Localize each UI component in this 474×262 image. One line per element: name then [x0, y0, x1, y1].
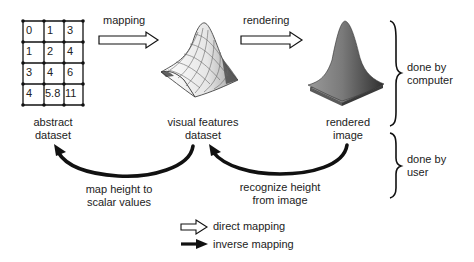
inverse-arrow-left-head-icon	[54, 144, 66, 156]
done-by-computer-line2: computer	[407, 74, 453, 87]
legend-direct-arrow-icon	[181, 220, 207, 234]
rendered-image-label: rendered image	[318, 116, 378, 142]
brace-user-icon	[390, 133, 401, 198]
visual-features-label: visual features dataset	[158, 116, 248, 142]
grid-cell: 5.8	[45, 87, 60, 99]
done-by-computer-line1: done by	[407, 61, 453, 74]
abstract-dataset-label-line1: abstract	[18, 116, 88, 129]
grid-cell: 1	[47, 24, 53, 36]
grid-cell: 4	[26, 87, 32, 99]
abstract-dataset-label-line2: dataset	[18, 129, 88, 142]
visual-features-label-line1: visual features	[158, 116, 248, 129]
map-height-label-line2: scalar values	[74, 196, 164, 209]
grid-cell: 1	[26, 45, 32, 57]
done-by-user-line1: done by	[407, 153, 446, 166]
mapping-label: mapping	[103, 14, 145, 27]
map-height-label: map height to scalar values	[74, 183, 164, 209]
grid-cell: 3	[26, 66, 32, 78]
map-height-label-line1: map height to	[74, 183, 164, 196]
recognize-height-label-line1: recognize height	[228, 181, 332, 194]
grid-cell: 2	[47, 45, 53, 57]
grid-cell: 4	[67, 45, 73, 57]
grid-cell: 4	[47, 66, 53, 78]
rendered-surface-icon	[308, 21, 384, 106]
rendering-arrow-icon	[241, 32, 302, 48]
wireframe-surface-icon	[161, 23, 238, 97]
grid-cell: 11	[65, 87, 76, 99]
legend-inverse-label: inverse mapping	[213, 238, 294, 251]
brace-computer-icon	[390, 21, 401, 126]
done-by-user-line2: user	[407, 166, 446, 179]
done-by-computer-label: done by computer	[407, 61, 453, 87]
legend-direct-label: direct mapping	[213, 220, 285, 233]
rendered-image-label-line2: image	[318, 129, 378, 142]
grid-cell: 6	[67, 66, 73, 78]
mapping-arrow-icon	[99, 32, 158, 48]
grid-cell: 3	[67, 24, 73, 36]
legend-inverse-arrow-icon	[181, 239, 208, 249]
inverse-arrow-right-head-icon	[209, 144, 221, 156]
inverse-arrow-right-icon	[213, 145, 347, 174]
grid-cell: 0	[26, 24, 32, 36]
rendering-label: rendering	[243, 14, 289, 27]
done-by-user-label: done by user	[407, 153, 446, 179]
recognize-height-label: recognize height from image	[228, 181, 332, 207]
abstract-dataset-label: abstract dataset	[18, 116, 88, 142]
recognize-height-label-line2: from image	[228, 194, 332, 207]
rendered-image-label-line1: rendered	[318, 116, 378, 129]
visual-features-label-line2: dataset	[158, 129, 248, 142]
inverse-arrow-left-icon	[58, 146, 193, 176]
